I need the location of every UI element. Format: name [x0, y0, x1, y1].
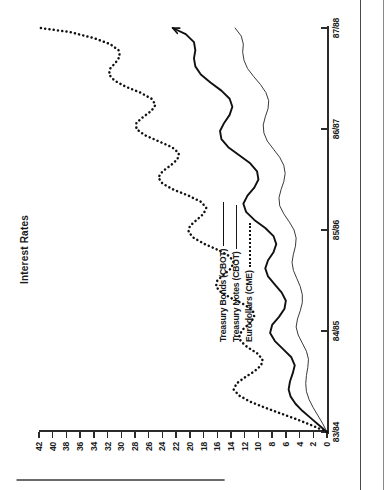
legend-item-label: Eurodollars (CME) [244, 270, 254, 342]
legend-swatch-solid-thin [233, 205, 239, 249]
series-layer [17, 10, 369, 480]
legend-item: Treasury Notes (CBOT) [226, 174, 239, 342]
chart-legend: Treasury Bonds (CBOT)Treasury Notes (CBO… [213, 174, 252, 342]
series-line [40, 28, 327, 432]
rotation-stage: Interest Rates 0246810121416182022242628… [0, 0, 386, 490]
legend-swatch-solid-thick [220, 202, 226, 246]
interest-rates-chart: Interest Rates 0246810121416182022242628… [17, 10, 369, 480]
legend-item: Eurodollars (CME) [239, 174, 252, 342]
legend-swatch-dotted [246, 223, 252, 267]
legend-item: Treasury Bonds (CBOT) [213, 174, 226, 342]
